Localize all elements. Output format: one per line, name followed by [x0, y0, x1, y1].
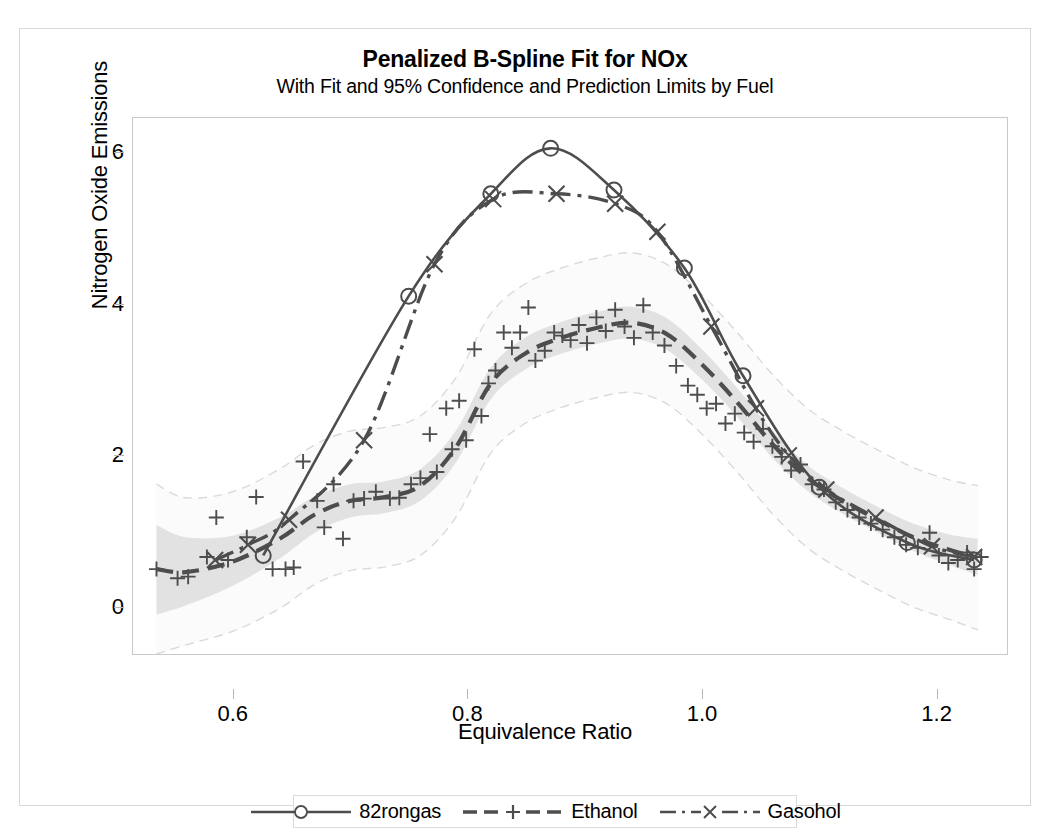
x-tick-label: 0.6 — [203, 701, 263, 727]
legend-swatch-x-icon — [658, 802, 762, 822]
plot-area — [132, 117, 1008, 655]
legend-label: Ethanol — [571, 800, 637, 823]
chart-legend: 82rongasEthanolGasohol — [293, 795, 797, 828]
y-tick-mark — [114, 607, 124, 608]
x-tick-mark — [937, 689, 938, 699]
x-tick-mark — [233, 689, 234, 699]
y-axis-tick-labels: 0246 — [68, 117, 124, 655]
x-axis-label: Equivalence Ratio — [20, 719, 1050, 745]
chart-title: Penalized B-Spline Fit for NOx — [20, 47, 1030, 71]
legend-swatch-circle-icon — [249, 802, 353, 822]
plot-canvas — [133, 118, 1007, 654]
x-tick-mark — [702, 689, 703, 699]
legend-item-82rongas[interactable]: 82rongas — [249, 800, 441, 823]
title-block: Penalized B-Spline Fit for NOx With Fit … — [20, 47, 1030, 98]
legend-swatch-plus-icon — [461, 802, 565, 822]
x-tick-label: 0.8 — [437, 701, 497, 727]
y-tick-mark — [114, 455, 124, 456]
legend-marker-circle — [295, 806, 307, 818]
y-tick-mark — [114, 304, 124, 305]
graph-frame: Penalized B-Spline Fit for NOx With Fit … — [19, 28, 1031, 806]
chart-subtitle: With Fit and 95% Confidence and Predicti… — [20, 75, 1030, 98]
legend-item-ethanol[interactable]: Ethanol — [461, 800, 637, 823]
x-tick-mark — [467, 689, 468, 699]
x-axis-tick-labels: 0.60.81.01.2 — [132, 689, 1008, 719]
legend-item-gasohol[interactable]: Gasohol — [658, 800, 841, 823]
legend-label: Gasohol — [768, 800, 841, 823]
prediction-band — [156, 253, 977, 654]
x-tick-label: 1.2 — [907, 701, 967, 727]
legend-label: 82rongas — [359, 800, 441, 823]
x-tick-label: 1.0 — [672, 701, 732, 727]
y-tick-mark — [114, 152, 124, 153]
